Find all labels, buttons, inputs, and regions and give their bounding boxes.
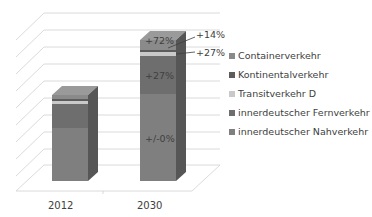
legend-item-containerverkehr: Containerverkehr — [229, 46, 370, 65]
legend-label: Kontinentalverkehr — [238, 69, 328, 80]
legend: Containerverkehr Kontinentalverkehr Tran… — [229, 46, 370, 141]
legend-swatch-icon — [229, 72, 235, 78]
legend-item-kontinentalverkehr: Kontinentalverkehr — [229, 65, 370, 84]
legend-label: innerdeutscher Nahverkehr — [238, 126, 368, 137]
legend-swatch-icon — [229, 110, 235, 116]
x-axis-label-2030: 2030 — [137, 200, 162, 211]
legend-label: innerdeutscher Fernverkehr — [238, 107, 370, 118]
legend-label: Containerverkehr — [238, 50, 321, 61]
label-nah-2030: +/-0% — [145, 133, 175, 144]
label-container-2030: +72% — [145, 35, 174, 46]
bar-2012 — [52, 86, 98, 181]
legend-swatch-icon — [229, 91, 235, 97]
label-transit-2030: +27% — [196, 47, 225, 58]
legend-item-transitverkehr: Transitverkehr D — [229, 84, 370, 103]
legend-item-fernverkehr: innerdeutscher Fernverkehr — [229, 103, 370, 122]
legend-swatch-icon — [229, 53, 235, 59]
stacked-bar-chart: +72% +14% +27% +27% +/-0% 2012 2030 Cont… — [0, 0, 372, 217]
legend-label: Transitverkehr D — [238, 88, 316, 99]
label-kontinental-2030: +14% — [196, 29, 225, 40]
x-axis-label-2012: 2012 — [48, 200, 73, 211]
gridlines — [16, 13, 220, 194]
legend-item-nahverkehr: innerdeutscher Nahverkehr — [229, 122, 370, 141]
legend-swatch-icon — [229, 129, 235, 135]
label-fern-2030: +27% — [145, 70, 174, 81]
